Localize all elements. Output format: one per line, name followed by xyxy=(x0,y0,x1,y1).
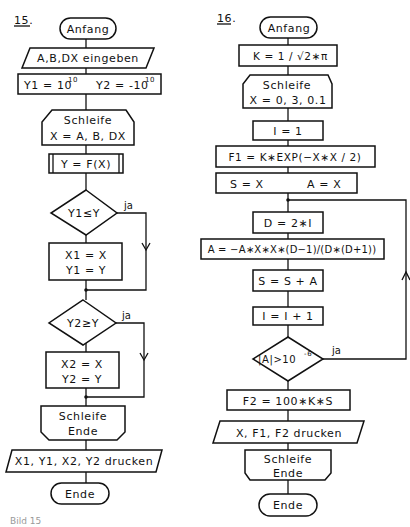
svg-text:Y2 = Y: Y2 = Y xyxy=(61,373,102,386)
svg-text:A = X: A = X xyxy=(307,178,341,191)
svg-text:D = 2∗I: D = 2∗I xyxy=(264,217,312,230)
svg-text:Schleife: Schleife xyxy=(264,453,312,466)
svg-text:S = S + A: S = S + A xyxy=(258,275,317,288)
svg-text:F1 = K∗EXP(−X∗X / 2): F1 = K∗EXP(−X∗X / 2) xyxy=(228,151,361,163)
const-k-label: K = 1 / √2∗π xyxy=(253,50,328,62)
flowchart-15: 15. ja ja Anfang A,B,DX eingeben Y1 = 1 xyxy=(6,14,162,526)
svg-text:F2 = 100∗K∗S: F2 = 100∗K∗S xyxy=(243,395,333,408)
end-label: Ende xyxy=(65,488,95,501)
svg-text:Schleife: Schleife xyxy=(59,410,107,423)
svg-text:A = −A∗X∗X∗(D−1)/(D∗(D+1)): A = −A∗X∗X∗(D−1)/(D∗(D+1)) xyxy=(208,244,377,255)
svg-text:X, F1, F2 drucken: X, F1, F2 drucken xyxy=(236,427,342,440)
svg-text:Y2≥Y: Y2≥Y xyxy=(66,317,99,330)
svg-text:Anfang: Anfang xyxy=(268,22,311,35)
svg-text:Schleife: Schleife xyxy=(263,79,311,92)
figure-caption: Bild 15 xyxy=(10,516,41,526)
chart-number-15: 15. xyxy=(14,14,33,27)
svg-text:I = 1: I = 1 xyxy=(273,125,302,138)
init-y2: Y2 = -10 xyxy=(95,79,149,92)
chart-number-16: 16. xyxy=(217,12,236,25)
decision2-yes-label: ja xyxy=(121,310,131,321)
svg-text:X2 = X: X2 = X xyxy=(61,358,103,371)
svg-text:|A|>10: |A|>10 xyxy=(258,354,296,366)
svg-text:Ende: Ende xyxy=(273,467,303,480)
svg-text:Schleife: Schleife xyxy=(64,114,112,127)
svg-text:Y1≤Y: Y1≤Y xyxy=(67,207,100,220)
svg-text:I = I + 1: I = I + 1 xyxy=(262,310,313,323)
svg-text:X1 = X: X1 = X xyxy=(65,249,107,262)
svg-text:Y = F(X): Y = F(X) xyxy=(60,158,111,171)
svg-text:Ende: Ende xyxy=(68,425,98,438)
svg-text:X = A, B, DX: X = A, B, DX xyxy=(50,130,126,143)
flowchart-16: 16. ja Anfang K = 1 / √2∗π Schleife X = … xyxy=(201,12,410,516)
input-label: A,B,DX eingeben xyxy=(37,52,139,65)
svg-text:10: 10 xyxy=(145,76,155,84)
output-label: X1, Y1, X2, Y2 drucken xyxy=(15,455,153,468)
flowcharts: 15. ja ja Anfang A,B,DX eingeben Y1 = 1 xyxy=(0,0,410,527)
svg-text:10: 10 xyxy=(68,76,78,84)
svg-text:Ende: Ende xyxy=(273,499,303,512)
svg-text:Y1 = Y: Y1 = Y xyxy=(65,264,106,277)
decision1-yes-label: ja xyxy=(123,200,133,211)
init-y1: Y1 = 10 xyxy=(23,79,72,92)
decision-yes-label: ja xyxy=(331,345,341,356)
svg-text:X = 0, 3, 0.1: X = 0, 3, 0.1 xyxy=(249,94,326,107)
svg-text:S = X: S = X xyxy=(230,178,264,191)
svg-text:-6: -6 xyxy=(304,350,312,358)
start-label: Anfang xyxy=(67,23,110,36)
